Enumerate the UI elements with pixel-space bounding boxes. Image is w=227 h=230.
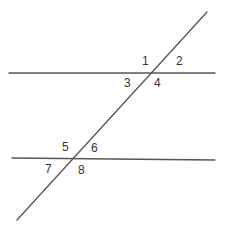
angle-label-3: 3 — [124, 76, 131, 90]
transversal-line — [17, 12, 207, 220]
angle-label-8: 8 — [78, 163, 85, 177]
parallel-lines-diagram: 1 2 3 4 5 6 7 8 — [0, 0, 227, 230]
angle-label-2: 2 — [176, 54, 183, 68]
angle-label-5: 5 — [62, 140, 69, 154]
angle-label-1: 1 — [142, 54, 149, 68]
angle-label-7: 7 — [45, 162, 52, 176]
angle-label-6: 6 — [91, 141, 98, 155]
parallel-line-bottom — [12, 158, 215, 160]
angle-label-4: 4 — [154, 76, 161, 90]
